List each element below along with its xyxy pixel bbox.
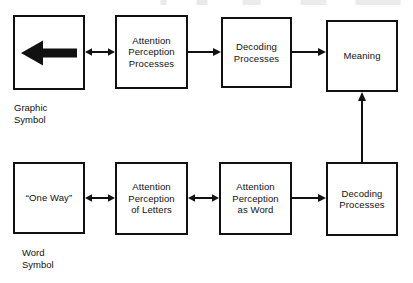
node-label-word-symbol-stimulus: “One Way”: [24, 192, 74, 204]
node-decoding-processes-bottom: Decoding Processes: [326, 162, 398, 236]
connector-attention-to-decoding-top: [188, 45, 221, 59]
left-arrow-glyph-icon: [21, 40, 77, 66]
caption-graphic-symbol: Graphic Symbol: [14, 102, 47, 126]
node-label-attention-perception-as-word: Attention Perception as Word: [230, 181, 280, 216]
scan-artifact: [150, 0, 413, 5]
node-label-decoding-processes-top: Decoding Processes: [232, 41, 281, 64]
connector-letters-to-word: [188, 191, 219, 205]
node-decoding-processes-top: Decoding Processes: [221, 17, 292, 88]
connector-word-to-decoding-bottom: [292, 191, 326, 205]
node-meaning: Meaning: [326, 20, 398, 92]
node-label-attention-perception-processes: Attention Perception Processes: [126, 35, 176, 70]
node-attention-perception-as-word: Attention Perception as Word: [219, 162, 292, 235]
node-attention-perception-processes: Attention Perception Processes: [115, 15, 188, 89]
flow-diagram-canvas: Attention Perception Processes Decoding …: [0, 0, 413, 283]
node-label-meaning: Meaning: [341, 50, 382, 62]
node-attention-perception-of-letters: Attention Perception of Letters: [115, 162, 188, 235]
connector-word-to-letters: [85, 191, 115, 205]
node-label-decoding-processes-bottom: Decoding Processes: [337, 188, 386, 211]
node-label-attention-perception-of-letters: Attention Perception of Letters: [126, 181, 176, 216]
connector-decoding-to-meaning-top: [292, 45, 326, 59]
node-word-symbol-stimulus: “One Way”: [13, 162, 85, 234]
connector-graphic-to-attention: [85, 45, 115, 59]
node-graphic-symbol-stimulus: [13, 15, 85, 90]
caption-word-symbol: Word Symbol: [22, 247, 54, 271]
connector-decoding-bottom-to-meaning: [355, 92, 369, 162]
